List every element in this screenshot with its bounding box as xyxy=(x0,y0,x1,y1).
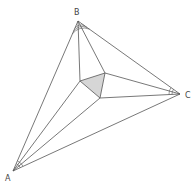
trisector-b-2 xyxy=(78,21,105,73)
vertex-label-a: A xyxy=(5,174,11,183)
trisector-a-2 xyxy=(13,98,100,171)
trisector-c-2 xyxy=(100,94,180,98)
outer-triangle xyxy=(13,21,180,171)
trisector-c-1 xyxy=(105,73,180,94)
trisector-b-1 xyxy=(78,21,80,81)
vertex-label-c: C xyxy=(185,91,191,100)
inner-equilateral-triangle xyxy=(80,73,105,98)
morley-diagram: A B C xyxy=(0,0,195,188)
vertex-label-b: B xyxy=(74,8,80,17)
